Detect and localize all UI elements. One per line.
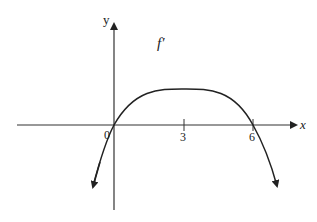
curve-left-arrow [93, 162, 100, 187]
x-axis-label: x [299, 117, 306, 132]
function-label: f′ [157, 35, 165, 51]
origin-label: 0 [104, 128, 110, 142]
y-axis-label: y [103, 12, 110, 27]
graph-canvas: y x f′ 0 3 6 [0, 0, 317, 222]
x-tick-label-3: 3 [180, 130, 186, 144]
x-tick-label-6: 6 [249, 130, 255, 144]
